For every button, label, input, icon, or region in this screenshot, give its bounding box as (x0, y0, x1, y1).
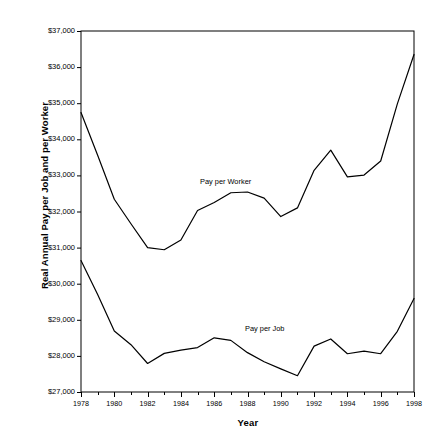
y-tick-label: $27,000 (19, 388, 75, 396)
series-label-pay-per-worker: Pay per Worker (200, 178, 251, 186)
y-tick-label: $37,000 (19, 27, 75, 35)
chart-axes (81, 31, 414, 392)
x-tick-label: 1998 (394, 400, 434, 408)
y-tick-label: $28,000 (19, 352, 75, 360)
series-line-pay-per-job (81, 261, 414, 376)
series-label-pay-per-job: Pay per Job (245, 325, 284, 333)
chart-container: $37,000$36,000$35,000$34,000$33,000$32,0… (0, 0, 444, 448)
plot-frame (81, 31, 414, 392)
x-axis-title: Year (81, 417, 415, 428)
series-line-pay-per-worker (81, 54, 414, 249)
y-axis-title: Real Annual Pay per Job and per Worker (39, 46, 50, 346)
